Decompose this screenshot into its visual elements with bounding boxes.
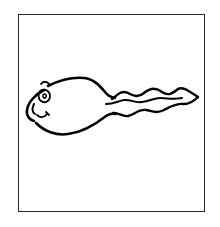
- head-outline: [27, 78, 116, 135]
- illustration-canvas: [0, 0, 220, 227]
- eye-icon: [39, 90, 50, 102]
- nose: [33, 104, 35, 114]
- eyebrow: [41, 82, 49, 84]
- tail-middle-strand: [106, 98, 182, 104]
- smile: [37, 112, 49, 117]
- tail-upper-strand: [112, 88, 198, 99]
- sperm-cartoon-illustration: [0, 0, 220, 227]
